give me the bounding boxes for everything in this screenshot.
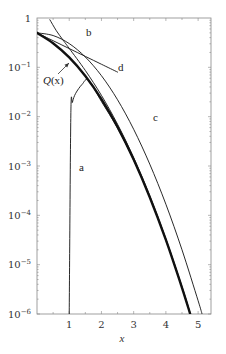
curve-label-a: a bbox=[79, 161, 84, 173]
curve-a bbox=[69, 79, 190, 314]
y-axis-tick-labels: 110−110−210−310−410−510−6 bbox=[8, 13, 32, 320]
x-tick-label: 4 bbox=[163, 319, 169, 330]
y-tick-label: 10−1 bbox=[8, 61, 31, 73]
x-tick-label: 2 bbox=[98, 319, 104, 330]
x-axis-tick-labels: 12345 bbox=[66, 319, 201, 330]
y-tick-label: 10−4 bbox=[8, 209, 32, 221]
curve-label-q: Q(x) bbox=[43, 74, 64, 87]
x-tick-label: 3 bbox=[130, 319, 136, 330]
y-tick-label: 10−3 bbox=[8, 160, 31, 172]
q-function-chart: 110−110−210−310−410−510−6 12345 x a b c … bbox=[0, 0, 226, 354]
curve-label-b: b bbox=[86, 26, 92, 38]
q-label-function: Q bbox=[43, 74, 51, 86]
y-tick-label: 10−2 bbox=[8, 110, 31, 122]
plot-frame bbox=[37, 18, 211, 314]
y-tick-label: 10−5 bbox=[8, 258, 31, 270]
x-tick-label: 5 bbox=[195, 319, 201, 330]
axis-ticks bbox=[37, 18, 211, 314]
curve-label-d: d bbox=[118, 61, 124, 73]
x-axis-title: x bbox=[119, 332, 125, 344]
q-label-arg: (x) bbox=[51, 74, 64, 87]
y-tick-label: 1 bbox=[25, 13, 31, 24]
x-tick-label: 1 bbox=[66, 319, 72, 330]
y-tick-label: 10−6 bbox=[8, 308, 32, 320]
curve-label-c: c bbox=[153, 111, 158, 123]
